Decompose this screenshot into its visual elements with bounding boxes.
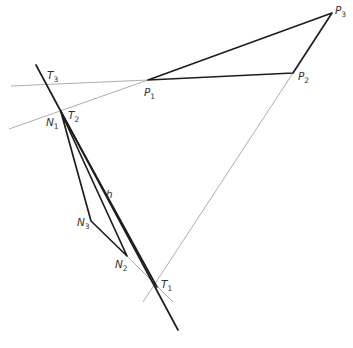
label-t2: T2 [68, 109, 79, 124]
triangle-n1-n2-n3 [61, 112, 127, 256]
line-t3-p1-extension [11, 80, 148, 86]
label-n1: N1 [46, 116, 59, 131]
label-t3: T3 [47, 69, 58, 84]
label-t1: T1 [161, 278, 172, 293]
label-p2: P2 [298, 70, 309, 85]
line-p2-t1 [143, 73, 293, 302]
label-n3: N3 [77, 216, 90, 231]
construction-diagram: P1 P2 P3 T3 T2 N1 N3 N2 T1 h [0, 0, 353, 348]
label-p1: P1 [144, 86, 155, 101]
label-p3: P3 [335, 4, 346, 19]
label-h: h [106, 188, 113, 200]
triangle-p1-p2-p3 [148, 13, 332, 80]
label-n2: N2 [115, 258, 128, 273]
